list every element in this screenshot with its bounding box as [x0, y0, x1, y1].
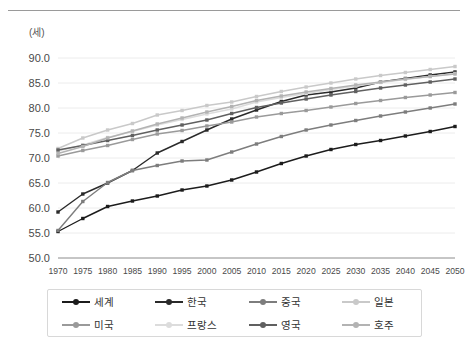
- legend-swatch-icon: [342, 320, 370, 330]
- series-marker-미국: [180, 129, 183, 132]
- legend-label: 호주: [374, 317, 394, 332]
- series-marker-호주: [354, 83, 357, 86]
- series-marker-미국: [131, 138, 134, 141]
- series-marker-중국: [280, 135, 283, 138]
- series-marker-일본: [329, 81, 332, 84]
- series-marker-중국: [131, 169, 134, 172]
- series-marker-한국: [180, 140, 183, 143]
- legend-swatch-icon: [62, 320, 90, 330]
- x-axis-tick-label: 2020: [297, 266, 316, 276]
- series-marker-호주: [255, 99, 258, 102]
- legend-label: 일본: [374, 294, 394, 309]
- x-axis-tick-label: 2010: [247, 266, 266, 276]
- x-axis-tick-label: 1995: [173, 266, 192, 276]
- series-marker-미국: [404, 96, 407, 99]
- series-marker-호주: [205, 110, 208, 113]
- series-marker-한국: [81, 192, 84, 195]
- series-marker-한국: [230, 117, 233, 120]
- series-marker-세계: [205, 184, 208, 187]
- series-marker-중국: [156, 164, 159, 167]
- series-marker-호주: [453, 72, 456, 75]
- x-axis-tick-label: 2000: [197, 266, 216, 276]
- series-marker-영국: [131, 134, 134, 137]
- series-marker-세계: [428, 130, 431, 133]
- series-marker-일본: [180, 109, 183, 112]
- legend-label: 영국: [281, 317, 301, 332]
- series-marker-세계: [106, 205, 109, 208]
- x-axis-tick-label: 1970: [48, 266, 67, 276]
- series-marker-호주: [180, 116, 183, 119]
- x-axis-tick-label: 1975: [73, 266, 92, 276]
- series-marker-호주: [81, 145, 84, 148]
- series-marker-중국: [379, 114, 382, 117]
- series-marker-일본: [404, 71, 407, 74]
- x-axis-tick-label: 2015: [272, 266, 291, 276]
- legend-item-일본[interactable]: 일본: [328, 294, 421, 309]
- series-marker-영국: [180, 123, 183, 126]
- series-marker-세계: [329, 148, 332, 151]
- series-marker-일본: [106, 128, 109, 131]
- series-marker-일본: [131, 122, 134, 125]
- series-marker-영국: [453, 77, 456, 80]
- line-chart-plot: 90.085.080.075.070.065.060.055.050.01970…: [0, 0, 468, 290]
- y-axis-tick-label: 75.0: [29, 127, 50, 139]
- x-axis-tick-label: 1980: [98, 266, 117, 276]
- legend-item-호주[interactable]: 호주: [328, 317, 421, 332]
- series-marker-중국: [404, 110, 407, 113]
- series-marker-미국: [428, 93, 431, 96]
- legend-label: 한국: [187, 294, 207, 309]
- series-marker-미국: [354, 102, 357, 105]
- series-marker-세계: [81, 217, 84, 220]
- series-marker-세계: [180, 188, 183, 191]
- chart-legend: 세계한국중국일본미국프랑스영국호주: [47, 289, 422, 337]
- series-marker-중국: [230, 150, 233, 153]
- series-marker-일본: [379, 74, 382, 77]
- series-marker-미국: [304, 109, 307, 112]
- series-marker-영국: [255, 106, 258, 109]
- series-marker-호주: [56, 152, 59, 155]
- series-line-한국: [58, 72, 455, 212]
- y-axis-tick-label: 65.0: [29, 177, 50, 189]
- series-marker-미국: [329, 105, 332, 108]
- series-marker-중국: [81, 200, 84, 203]
- x-axis-tick-label: 1990: [148, 266, 167, 276]
- series-marker-일본: [453, 65, 456, 68]
- series-marker-일본: [354, 77, 357, 80]
- series-marker-일본: [156, 113, 159, 116]
- series-marker-일본: [81, 136, 84, 139]
- series-line-프랑스: [58, 74, 455, 152]
- y-axis-tick-label: 85.0: [29, 77, 50, 89]
- legend-item-한국[interactable]: 한국: [141, 294, 234, 309]
- y-axis-tick-label: 80.0: [29, 102, 50, 114]
- legend-dot-icon: [73, 299, 79, 305]
- legend-swatch-icon: [155, 320, 183, 330]
- series-marker-중국: [354, 119, 357, 122]
- legend-dot-icon: [166, 322, 172, 328]
- series-line-중국: [58, 104, 455, 231]
- series-marker-호주: [404, 77, 407, 80]
- series-marker-영국: [56, 148, 59, 151]
- legend-dot-icon: [260, 299, 266, 305]
- series-marker-일본: [230, 100, 233, 103]
- series-marker-미국: [280, 112, 283, 115]
- series-marker-중국: [453, 102, 456, 105]
- series-marker-영국: [304, 97, 307, 100]
- series-marker-호주: [379, 80, 382, 83]
- series-marker-호주: [304, 90, 307, 93]
- legend-swatch-icon: [155, 297, 183, 307]
- legend-item-미국[interactable]: 미국: [48, 317, 141, 332]
- series-marker-일본: [255, 95, 258, 98]
- legend-item-프랑스[interactable]: 프랑스: [141, 317, 234, 332]
- legend-label: 미국: [94, 317, 114, 332]
- legend-item-영국[interactable]: 영국: [235, 317, 328, 332]
- series-marker-영국: [205, 118, 208, 121]
- legend-dot-icon: [73, 322, 79, 328]
- legend-label: 세계: [94, 294, 114, 309]
- series-marker-영국: [230, 112, 233, 115]
- legend-item-세계[interactable]: 세계: [48, 294, 141, 309]
- series-marker-호주: [131, 129, 134, 132]
- series-marker-영국: [280, 101, 283, 104]
- legend-item-중국[interactable]: 중국: [235, 294, 328, 309]
- series-marker-영국: [379, 86, 382, 89]
- x-axis-tick-label: 2030: [346, 266, 365, 276]
